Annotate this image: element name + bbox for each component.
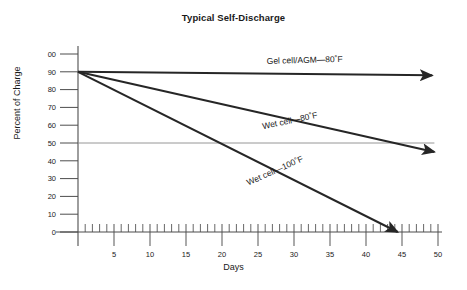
y-tick-label: 0	[52, 228, 56, 237]
y-tick-label: 00	[48, 50, 56, 59]
series-lines-group	[78, 72, 434, 232]
y-axis: 010203040506070809000	[48, 46, 78, 246]
series-line-1	[78, 72, 432, 76]
x-tick-label: 5	[112, 250, 116, 259]
x-tick-label: 45	[398, 250, 406, 259]
series-line-3	[78, 72, 398, 232]
y-tick-label: 10	[48, 210, 56, 219]
x-tick-label: 15	[182, 250, 190, 259]
series-line-2	[78, 72, 434, 152]
x-tick-label: 35	[326, 250, 334, 259]
x-tick-label: 25	[254, 250, 262, 259]
chart-container: Typical Self-Discharge Percent of Charge…	[0, 0, 467, 290]
series-label-2: Wet cell—80˚F	[261, 110, 318, 131]
y-tick-label: 30	[48, 174, 56, 183]
y-tick-label: 50	[48, 139, 56, 148]
y-tick-label: 20	[48, 192, 56, 201]
y-tick-label: 80	[48, 85, 56, 94]
x-axis: 5101520253035404550	[56, 224, 442, 259]
y-tick-label: 40	[48, 157, 56, 166]
y-tick-label: 70	[48, 103, 56, 112]
x-tick-label: 50	[434, 250, 442, 259]
x-tick-label: 30	[290, 250, 298, 259]
x-tick-label: 10	[146, 250, 154, 259]
series-label-3: Wet cell—100˚F	[245, 154, 305, 188]
x-tick-label: 40	[362, 250, 370, 259]
series-label-1: Gel cell/AGM—80˚F	[267, 54, 343, 66]
plot-area: 010203040506070809000 510152025303540455…	[0, 0, 467, 290]
y-tick-label: 90	[48, 68, 56, 77]
y-tick-label: 60	[48, 121, 56, 130]
x-tick-label: 20	[218, 250, 226, 259]
